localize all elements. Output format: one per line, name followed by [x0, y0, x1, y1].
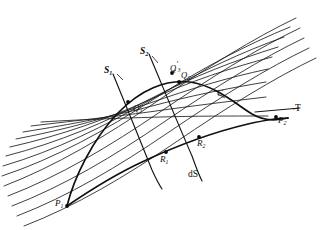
label-r1: R1	[160, 155, 168, 164]
label-p2: P2	[278, 116, 286, 125]
field-line-8	[6, 47, 278, 156]
label-curve-c: C	[217, 89, 223, 98]
label-tangent-t: T	[295, 104, 301, 114]
field-lines-group	[2, 18, 316, 226]
label-leader-lines-group	[117, 56, 299, 109]
label-r2: R2	[197, 139, 205, 148]
label-s1: S1	[104, 66, 112, 76]
label-p1: P1	[55, 199, 63, 208]
point-q1	[126, 100, 130, 104]
point-p1	[65, 204, 69, 208]
label-s2: S2	[140, 47, 148, 57]
label-q2: Q2	[181, 71, 190, 80]
label-q1: Q1	[133, 104, 142, 113]
s1-leader	[117, 74, 123, 80]
label-q3-prime: Q′3	[170, 61, 181, 72]
point-q2	[177, 80, 181, 84]
field-line-3	[17, 48, 309, 216]
diagram-svg	[0, 0, 321, 230]
figure-canvas: S1 S2 Q1 Q′3 Q2 C T P2 P1 R1 R2 dS	[0, 0, 321, 230]
label-arc-element-ds: dS	[188, 170, 198, 180]
transversal-line-s1	[113, 74, 162, 189]
